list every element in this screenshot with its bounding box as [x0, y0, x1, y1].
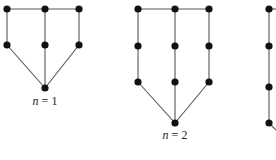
graph-n2-vertex [134, 5, 141, 12]
graph-n2-vertex [134, 42, 141, 49]
graph-n1-vertex [41, 84, 48, 91]
graph-n1-vertex [75, 41, 82, 48]
graph-n1-edge [7, 45, 45, 88]
graph-n2-edge [138, 82, 175, 123]
graph-n2-vertex [171, 42, 178, 49]
graph-diagram: n = 1n = 2 [0, 0, 276, 160]
graph-n1-edge [45, 45, 79, 88]
graph-n3-partial-vertex [265, 83, 272, 90]
graph-n2-edge [175, 82, 209, 123]
graph-n2-label: n = 2 [163, 128, 188, 142]
graph-n2-vertex [205, 42, 212, 49]
graph-n3-partial-vertex [265, 5, 272, 12]
graph-labels: n = 1n = 2 [33, 94, 188, 142]
graph-n3-partial-vertex [265, 119, 272, 126]
graph-edges [7, 9, 276, 130]
graph-n2-vertex [205, 78, 212, 85]
graph-n2-vertex [171, 5, 178, 12]
graph-n1-vertex [41, 41, 48, 48]
graph-n1-vertex [3, 41, 10, 48]
graph-n2-vertex [171, 78, 178, 85]
graph-n2-vertex [134, 78, 141, 85]
graph-n1-vertex [41, 5, 48, 12]
graph-n2-vertex [205, 5, 212, 12]
graph-n3-partial-vertex [265, 42, 272, 49]
graph-n2-vertex [171, 119, 178, 126]
graph-n1-vertex [3, 5, 10, 12]
graph-n1-label: n = 1 [33, 94, 58, 108]
graph-n1-vertex [75, 5, 82, 12]
